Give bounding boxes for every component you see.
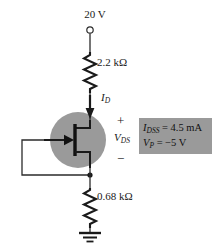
resistor-drain-symbol: [84, 52, 96, 93]
parameter-vp: VP = −5 V: [143, 137, 186, 150]
resistor-source-symbol: [84, 188, 96, 228]
idss-value: = 4.5 mA: [162, 122, 202, 133]
voltage-subscript: DS: [121, 136, 130, 145]
idss-subscript: DSS: [147, 126, 160, 135]
current-id-label: ID: [101, 92, 110, 104]
circuit-diagram: 20 V 2.2 kΩ ID + VDS − 0.68 kΩ IDSS = 4.…: [0, 0, 220, 250]
vds-plus-label: +: [117, 114, 124, 127]
resistor-source-label: 0.68 kΩ: [97, 191, 133, 202]
vds-label: VDS: [114, 132, 130, 144]
parameter-idss: IDSS = 4.5 mA: [143, 122, 202, 135]
voltage-symbol: V: [114, 131, 121, 143]
supply-terminal-node-icon: [87, 27, 93, 33]
supply-voltage-label: 20 V: [70, 9, 120, 20]
current-subscript: D: [105, 96, 110, 105]
vp-value: = −5 V: [157, 137, 187, 148]
resistor-drain-label: 2.2 kΩ: [97, 57, 127, 68]
vp-subscript: P: [149, 141, 154, 150]
vds-minus-label: −: [117, 152, 124, 165]
